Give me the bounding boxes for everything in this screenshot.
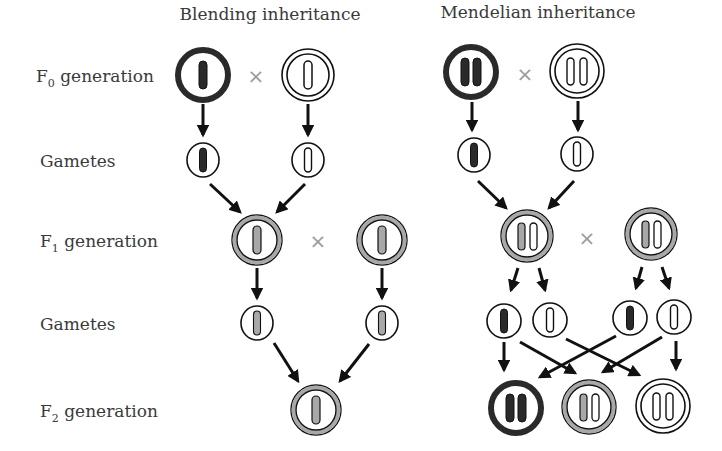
mendelian-f2-gray-cell	[562, 380, 616, 434]
mendelian-f1-gray-cell	[625, 208, 677, 260]
arrow	[636, 267, 642, 288]
blending-gamete-white	[292, 143, 324, 177]
blending-f1-gray-cell	[357, 215, 407, 265]
mendelian-panel: × ×	[446, 44, 691, 434]
mendelian-gamete-white	[657, 300, 691, 334]
arrow	[511, 268, 518, 290]
title-mendelian: Mendelian inheritance	[440, 2, 635, 22]
label-f1-generation: F1 generation	[40, 231, 158, 255]
arrow	[520, 342, 575, 373]
arrow	[277, 184, 305, 212]
mendelian-f2-dark-cell	[491, 383, 541, 433]
mendelian-gamete-dark	[613, 301, 647, 335]
mendelian-f2-white-cell	[636, 379, 690, 433]
blending-panel: × ×	[178, 49, 407, 435]
cross-symbol: ×	[517, 62, 534, 86]
arrow	[662, 267, 669, 288]
arrow	[210, 184, 240, 212]
mendelian-gamete-white	[561, 137, 593, 171]
blending-f1-gray-cell	[232, 215, 282, 265]
mendelian-gamete-white	[533, 303, 567, 337]
arrow	[478, 181, 506, 208]
label-f2-generation: F2 generation	[40, 401, 158, 425]
arrow	[603, 337, 662, 372]
blending-f0-white-cell	[282, 49, 334, 101]
blending-gamete-gray	[241, 306, 273, 340]
blending-gamete-dark	[187, 143, 219, 177]
mendelian-gamete-dark	[487, 304, 521, 338]
mendelian-gamete-dark	[458, 138, 490, 172]
blending-gamete-gray	[366, 306, 398, 340]
label-gametes-2: Gametes	[40, 314, 116, 334]
mendelian-f0-dark-cell	[446, 47, 496, 97]
mendelian-f0-white-cell	[550, 44, 604, 98]
mendelian-f1-gray-cell	[501, 210, 553, 262]
label-f0-generation: F0 generation	[36, 66, 154, 90]
cross-symbol: ×	[310, 229, 327, 253]
title-blending: Blending inheritance	[180, 4, 361, 24]
inheritance-diagram: Blending inheritance Mendelian inheritan…	[0, 0, 722, 451]
blending-f0-dark-cell	[178, 50, 228, 100]
arrow	[274, 343, 298, 381]
cross-symbol: ×	[579, 226, 596, 250]
arrow	[340, 344, 369, 381]
arrow	[549, 181, 574, 208]
arrow	[539, 268, 545, 290]
blending-f2-gray-cell	[291, 385, 341, 435]
cross-symbol: ×	[248, 64, 265, 88]
label-gametes-1: Gametes	[40, 151, 116, 171]
